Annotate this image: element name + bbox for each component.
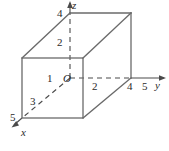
x-tick-label-3: 3 [30, 96, 36, 107]
z-tick-label-2: 2 [57, 37, 63, 48]
y-tick-label-5: 5 [142, 81, 148, 92]
box-right-face-diagonal [83, 78, 131, 118]
z-axis-label: z [72, 0, 76, 11]
box-edges [22, 13, 131, 118]
y-axis-label: y [155, 80, 160, 91]
axis-lines [14, 3, 164, 125]
x-axis-label: x [21, 127, 26, 138]
y-tick-label-2: 2 [92, 81, 98, 92]
axis-arrowheads [12, 1, 167, 128]
box-top-left-edge [22, 13, 70, 58]
y-axis-arrowhead [159, 75, 166, 81]
origin-label: O [63, 73, 71, 84]
y-tick-label-4: 4 [127, 81, 133, 92]
figure-canvas: 4 2 2 4 5 1 3 5 O z y x [0, 0, 169, 151]
x-tick-label-5: 5 [10, 112, 16, 123]
box-front-face [22, 58, 83, 118]
z-tick-label-4: 4 [57, 8, 63, 19]
box-top-right-edge [83, 13, 131, 58]
x-tick-label-1: 1 [47, 73, 53, 84]
